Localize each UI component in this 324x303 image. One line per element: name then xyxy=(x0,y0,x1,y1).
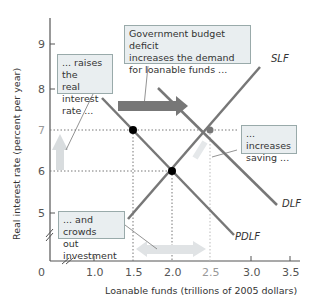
y-tick-7: 7 xyxy=(38,124,45,137)
annotation-government-deficit: Government budget deficit increases the … xyxy=(124,25,251,64)
annotation-raises-rate: ... raises the real interest rate ... xyxy=(57,54,113,94)
y-tick-6: 6 xyxy=(38,165,45,178)
investment-point xyxy=(129,126,137,134)
quantity-arrow-icon xyxy=(136,241,206,257)
saving-arrow-icon xyxy=(195,142,205,158)
pdlf-label: PDLF xyxy=(235,231,260,242)
y-tick-9: 9 xyxy=(38,38,45,51)
x-tick-1-5: 1.5 xyxy=(125,266,143,279)
y-ticks xyxy=(50,44,55,213)
annotation-line: out investment xyxy=(63,238,120,262)
x-ticks xyxy=(94,256,290,261)
annotation-line: rate ... xyxy=(62,105,108,117)
y-tick-8: 8 xyxy=(38,83,45,96)
annotation-line: saving ... xyxy=(246,152,292,164)
x-tick-2-0: 2.0 xyxy=(164,266,182,279)
x-tick-3-5: 3.5 xyxy=(282,266,300,279)
annotation-line: increases the demand xyxy=(129,52,246,64)
annotation-increases-saving: ... increases saving ... xyxy=(241,125,297,154)
rate-rise-arrow-icon xyxy=(52,134,68,170)
annotation-crowds-out: ... and crowds out investment xyxy=(58,211,125,239)
annotation-line: Government budget deficit xyxy=(129,28,246,52)
x-tick-1-0: 1.0 xyxy=(86,266,104,279)
initial-equilibrium-point xyxy=(168,167,176,175)
annotation-line: ... increases xyxy=(246,128,292,152)
annotation-line: real interest xyxy=(62,81,108,105)
annotation-line: for loanable funds ... xyxy=(129,64,246,76)
dlf-label: DLF xyxy=(282,198,301,209)
x-tick-3-0: 3.0 xyxy=(243,266,261,279)
slf-label: SLF xyxy=(271,53,289,64)
x-axis-label: Loanable funds (trillions of 2005 dollar… xyxy=(105,285,297,296)
x-tick-0: 0 xyxy=(38,266,45,279)
y-axis-label: Real interest rate (percent per year) xyxy=(11,68,22,240)
y-tick-5: 5 xyxy=(38,207,45,220)
annotation-line: ... and crowds xyxy=(63,214,120,238)
x-tick-2-5: 2.5 xyxy=(202,266,220,279)
new-equilibrium-point xyxy=(207,127,214,134)
annotation-line: ... raises the xyxy=(62,57,108,81)
